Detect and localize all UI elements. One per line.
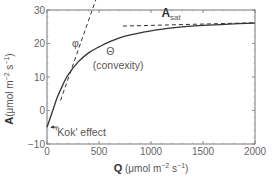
y-tick-label: −10 bbox=[28, 139, 45, 150]
light-response-chart: 0500100015002000−100102030 φΘ(convexity)… bbox=[0, 0, 274, 182]
y-tick-label: 10 bbox=[34, 72, 46, 83]
annotation-label: φ bbox=[72, 37, 79, 49]
y-tick-label: 30 bbox=[34, 5, 46, 16]
x-axis-title: Q (μmol m−2 s−1) bbox=[114, 162, 189, 174]
x-tick-label: 1500 bbox=[192, 146, 215, 157]
dashed-guide-line bbox=[61, 0, 97, 100]
y-axis-title: A(μmol m−2 s−1) bbox=[3, 53, 15, 124]
x-tick-label: 0 bbox=[44, 146, 50, 157]
annotation-label: Θ bbox=[106, 45, 114, 57]
annotation-label: 'Kok' effect bbox=[55, 126, 106, 138]
arrow-head-icon bbox=[50, 126, 54, 129]
annotation-label: (convexity) bbox=[93, 59, 144, 71]
x-tick-label: 1000 bbox=[140, 146, 163, 157]
y-tick-label: 0 bbox=[39, 105, 45, 116]
y-tick-label: 20 bbox=[34, 38, 46, 49]
plot-border bbox=[47, 10, 255, 144]
x-tick-label: 500 bbox=[91, 146, 108, 157]
annotation-label: Asat bbox=[161, 6, 181, 22]
plot-frame bbox=[47, 10, 255, 144]
data-series bbox=[47, 0, 255, 127]
x-tick-label: 2000 bbox=[244, 146, 267, 157]
